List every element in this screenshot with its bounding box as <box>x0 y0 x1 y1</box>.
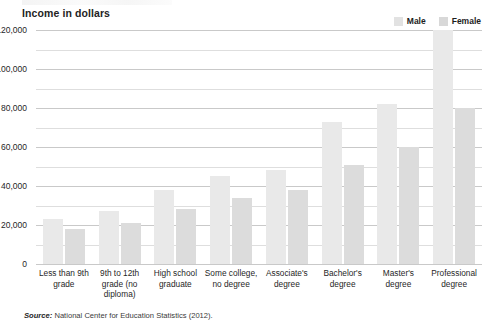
y-tick-label: 80,000 <box>0 103 27 113</box>
bar-group <box>36 30 92 264</box>
source-note: Source: National Center for Education St… <box>24 311 213 320</box>
plot-area: 020,00040,00060,00080,000100,000120,000 <box>36 30 482 264</box>
legend-label-male: Male <box>407 16 426 26</box>
bar-group <box>148 30 204 264</box>
y-tick-label: 120,000 <box>0 25 27 35</box>
x-tick-label: Less than 9th grade <box>36 268 92 300</box>
bar-male <box>99 211 119 264</box>
x-tick-label: Associate's degree <box>259 268 315 300</box>
x-tick-label: 9th to 12th grade (no diploma) <box>92 268 148 300</box>
x-tick-label: Professional degree <box>426 268 482 300</box>
bar-male <box>433 30 453 264</box>
y-tick-label: 40,000 <box>0 181 27 191</box>
legend-item-female: Female <box>439 16 481 26</box>
x-tick-label: Some college, no degree <box>203 268 259 300</box>
bar-group <box>92 30 148 264</box>
bar-male <box>154 190 174 264</box>
x-tick-label: High school graduate <box>148 268 204 300</box>
bar-male <box>266 170 286 264</box>
bar-female <box>455 108 475 264</box>
bar-male <box>322 122 342 264</box>
x-tick-label: Master's degree <box>371 268 427 300</box>
bar-groups <box>36 30 482 264</box>
x-axis-labels: Less than 9th grade9th to 12th grade (no… <box>36 268 482 300</box>
gridline <box>36 264 482 265</box>
bar-group <box>203 30 259 264</box>
chart-title: Income in dollars <box>22 7 110 19</box>
bar-female <box>121 223 141 264</box>
legend-swatch-female <box>439 17 448 26</box>
legend-item-male: Male <box>394 16 426 26</box>
chart-legend: Male Female <box>394 16 481 26</box>
legend-label-female: Female <box>452 16 481 26</box>
bar-group <box>315 30 371 264</box>
bar-group <box>426 30 482 264</box>
y-tick-label: 60,000 <box>0 142 27 152</box>
bar-female <box>176 209 196 264</box>
y-tick-label: 100,000 <box>0 64 27 74</box>
legend-swatch-male <box>394 17 403 26</box>
bar-group <box>259 30 315 264</box>
bar-group <box>371 30 427 264</box>
bar-male <box>210 176 230 264</box>
bar-male <box>43 219 63 264</box>
source-text: National Center for Education Statistics… <box>54 311 212 320</box>
bar-female <box>344 165 364 264</box>
y-tick-label: 0 <box>0 259 27 269</box>
source-prefix: Source: <box>24 311 52 320</box>
bar-female <box>232 198 252 264</box>
y-tick-label: 20,000 <box>0 220 27 230</box>
income-by-education-bar-chart: Income in dollars Male Female 020,00040,… <box>0 0 487 327</box>
bar-female <box>65 229 85 264</box>
bar-male <box>377 104 397 264</box>
bar-female <box>288 190 308 264</box>
bar-female <box>399 147 419 264</box>
x-tick-label: Bachelor's degree <box>315 268 371 300</box>
scan-artifact <box>22 0 172 5</box>
